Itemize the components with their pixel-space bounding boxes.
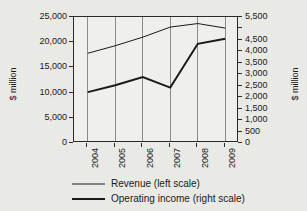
- y-tick-label-left-5000: 5,000: [44, 112, 67, 121]
- chart-figure: 05,00010,00015,00020,00025,000 $ million…: [0, 0, 307, 211]
- legend-line-icon-operating-income: [72, 194, 105, 204]
- x-tick-label-2005: 2005: [118, 148, 127, 168]
- legend-label-operating-income: Operating income (right scale): [111, 193, 245, 204]
- series-line-revenue: [88, 24, 226, 54]
- x-axis: 200420052006200720082009: [73, 143, 238, 177]
- y-tick-right-3500: [238, 62, 242, 63]
- y-axis-left-title: $ million: [8, 54, 18, 114]
- x-tick-label-2004: 2004: [91, 148, 100, 168]
- x-tick-label-2009: 2009: [228, 148, 237, 168]
- y-tick-right-1500: [238, 108, 242, 109]
- chart-legend: Revenue (left scale) Operating income (r…: [72, 176, 302, 206]
- x-tick-2009: [224, 143, 225, 147]
- legend-label-revenue: Revenue (left scale): [111, 178, 200, 189]
- y-tick-label-left-25000: 25,000: [39, 12, 67, 21]
- x-tick-2007: [169, 143, 170, 147]
- y-tick-right-5500: [238, 16, 242, 17]
- y-axis-right-title: $ million: [290, 54, 300, 114]
- y-tick-label-right-1000: 1,000: [245, 115, 268, 124]
- x-tick-2006: [141, 143, 142, 147]
- y-tick-right-1000: [238, 119, 242, 120]
- legend-line-icon-revenue: [72, 179, 105, 189]
- data-series-layer: [74, 17, 239, 143]
- y-tick-right-500: [238, 131, 242, 132]
- series-line-operating-income: [88, 39, 226, 92]
- y-tick-label-left-20000: 20,000: [39, 37, 67, 46]
- y-tick-label-right-1500: 1,500: [245, 103, 268, 112]
- x-tick-label-2006: 2006: [146, 148, 155, 168]
- x-tick-2004: [86, 143, 87, 147]
- y-tick-label-left-15000: 15,000: [39, 62, 67, 71]
- y-tick-label-right-500: 500: [245, 126, 260, 135]
- y-tick-label-right-4000: 4,000: [245, 46, 268, 55]
- y-tick-label-right-3500: 3,500: [245, 57, 268, 66]
- y-tick-right-3000: [238, 73, 242, 74]
- x-tick-2005: [114, 143, 115, 147]
- y-tick-right-4000: [238, 50, 242, 51]
- y-tick-label-right-3000: 3,000: [245, 69, 268, 78]
- y-tick-label-right-2500: 2,500: [245, 80, 268, 89]
- x-tick-2008: [196, 143, 197, 147]
- y-tick-label-right-4500: 4,500: [245, 34, 268, 43]
- y-tick-label-left-10000: 10,000: [39, 87, 67, 96]
- y-tick-right-2000: [238, 96, 242, 97]
- legend-item-revenue: Revenue (left scale): [72, 176, 302, 191]
- y-tick-right-4500: [238, 39, 242, 40]
- y-tick-label-right-5500: 5,500: [245, 12, 268, 21]
- x-tick-label-2007: 2007: [173, 148, 182, 168]
- y-tick-right-2500: [238, 85, 242, 86]
- legend-item-operating-income: Operating income (right scale): [72, 191, 302, 206]
- x-tick-label-2008: 2008: [201, 148, 210, 168]
- plot-area: [73, 16, 238, 142]
- y-tick-right-0: [238, 142, 242, 143]
- y-tick-label-right-2000: 2,000: [245, 92, 268, 101]
- y-tick-right-5000: [238, 27, 242, 28]
- y-tick-label-left-0: 0: [62, 138, 67, 147]
- y-tick-label-right-0: 0: [245, 138, 250, 147]
